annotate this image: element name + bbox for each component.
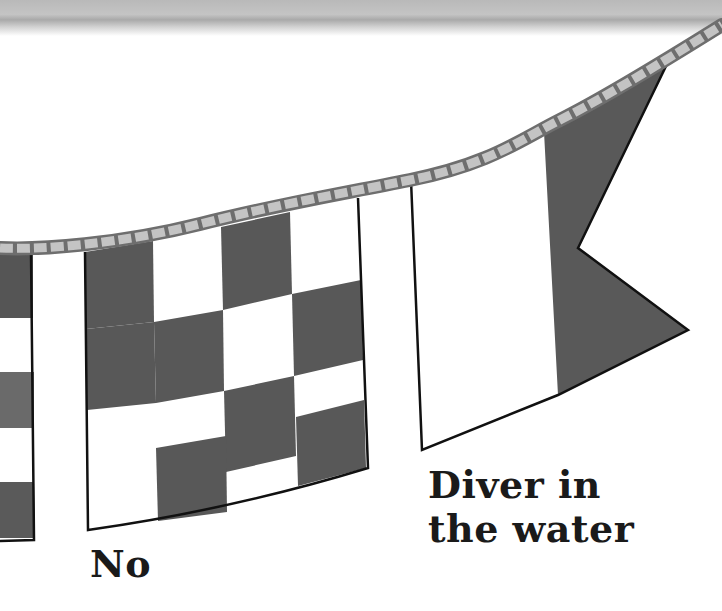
flag-label-no: No: [90, 542, 151, 586]
checkered-flag-no: [85, 198, 368, 530]
partial-striped-flag: [0, 252, 35, 541]
flag-label-diver: Diver in the water: [428, 463, 634, 551]
flag-label-diver-line1: Diver in: [428, 463, 634, 507]
flag-label-diver-line2: the water: [428, 507, 634, 551]
